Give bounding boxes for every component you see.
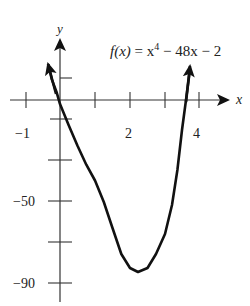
right-arrow-icon — [186, 66, 190, 102]
tick-label-4: 4 — [193, 126, 200, 141]
graph-canvas: y x −1 2 4 −50 −90 f(x) = x4 − 48x − 2 — [0, 0, 250, 306]
x-axis-label: x — [235, 92, 243, 107]
equation-fx: f(x) — [110, 43, 131, 60]
tick-label-2: 2 — [125, 126, 132, 141]
equation-eq: = x — [131, 43, 155, 59]
equation-tail: − 48x − 2 — [159, 43, 221, 59]
tick-label-neg1: −1 — [15, 126, 30, 141]
function-graph: y x −1 2 4 −50 −90 f(x) = x4 − 48x − 2 — [0, 0, 250, 306]
tick-label-neg50: −50 — [13, 194, 35, 209]
function-curve — [49, 65, 191, 272]
tick-label-neg90: −90 — [13, 276, 35, 291]
equation-label: f(x) = x4 − 48x − 2 — [110, 41, 221, 60]
y-axis-label: y — [55, 21, 63, 36]
left-arrow-icon — [48, 64, 56, 94]
